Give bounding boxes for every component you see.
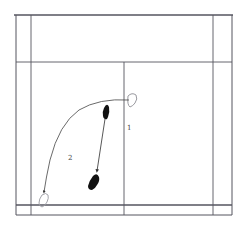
movement-path-1: 1 [88, 105, 131, 190]
badminton-court-diagram: 1 2 [0, 0, 241, 237]
court-lines [14, 15, 233, 215]
movement-path-2: 2 [39, 100, 129, 207]
label-movement-2: 2 [68, 154, 72, 162]
start-footprint [128, 94, 137, 107]
label-movement-1: 1 [127, 124, 131, 132]
footprint-filled-icon [88, 174, 99, 190]
footprint-outline-icon [128, 94, 137, 107]
